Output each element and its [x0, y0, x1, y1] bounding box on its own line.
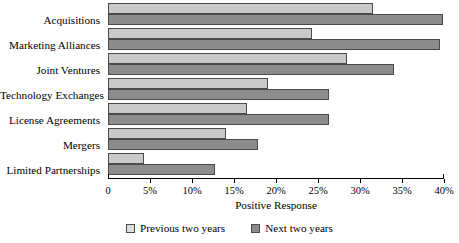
- bar-prev-3: [108, 78, 268, 89]
- category-axis: Acquisitions Marketing Alliances Joint V…: [0, 0, 104, 178]
- legend-item-next-two-years: Next two years: [251, 222, 333, 234]
- bar-prev-2: [108, 53, 347, 64]
- bar-prev-0: [108, 3, 373, 14]
- bar-next-1: [108, 39, 440, 50]
- x-axis-tick-label-6: 30%: [340, 185, 380, 197]
- category-label-acquisitions: Acquisitions: [0, 14, 100, 26]
- x-axis-tick-8: [444, 179, 445, 183]
- bar-prev-4: [108, 103, 247, 114]
- x-axis-tick-label-8: 40%: [424, 185, 459, 197]
- category-label-limited-partnerships: Limited Partnerships: [0, 164, 100, 176]
- chart-legend: Previous two years Next two years: [0, 222, 459, 234]
- x-axis-tick-label-2: 10%: [172, 185, 212, 197]
- bar-prev-6: [108, 153, 144, 164]
- bar-next-3: [108, 89, 329, 100]
- x-axis-tick-1: [150, 179, 151, 183]
- bar-next-2: [108, 64, 394, 75]
- legend-swatch-icon-previous: [126, 224, 135, 233]
- x-axis-tick-label-7: 35%: [382, 185, 422, 197]
- x-axis-tick-3: [234, 179, 235, 183]
- bar-next-0: [108, 14, 443, 25]
- bar-next-4: [108, 114, 329, 125]
- x-axis-tick-label-3: 15%: [214, 185, 254, 197]
- category-label-mergers: Mergers: [0, 139, 100, 151]
- x-axis-tick-label-0: 0: [88, 185, 128, 197]
- bar-prev-5: [108, 128, 226, 139]
- legend-label-next: Next two years: [265, 222, 333, 234]
- bar-chart: Acquisitions Marketing Alliances Joint V…: [0, 0, 459, 243]
- bar-next-5: [108, 139, 258, 150]
- legend-item-previous-two-years: Previous two years: [126, 222, 225, 234]
- legend-swatch-icon-next: [251, 224, 260, 233]
- x-axis-tick-2: [192, 179, 193, 183]
- category-label-license-agreements: License Agreements: [0, 114, 100, 126]
- x-axis-tick-7: [402, 179, 403, 183]
- x-axis-title: Positive Response: [108, 199, 444, 211]
- x-axis-tick-6: [360, 179, 361, 183]
- bar-prev-1: [108, 28, 312, 39]
- x-axis-tick-4: [276, 179, 277, 183]
- x-axis-tick-label-4: 20%: [256, 185, 296, 197]
- x-axis-tick-5: [318, 179, 319, 183]
- category-label-marketing-alliances: Marketing Alliances: [0, 39, 100, 51]
- category-label-technology-exchanges: Technology Exchanges: [0, 89, 100, 101]
- x-axis-endcap-left: [108, 174, 109, 179]
- legend-label-previous: Previous two years: [140, 222, 225, 234]
- x-axis-tick-label-1: 5%: [130, 185, 170, 197]
- x-axis-tick-label-5: 25%: [298, 185, 338, 197]
- bar-next-6: [108, 164, 215, 175]
- plot-area: [108, 0, 444, 178]
- category-label-joint-ventures: Joint Ventures: [0, 64, 100, 76]
